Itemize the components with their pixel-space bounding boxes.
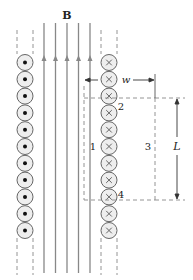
wire-into-page xyxy=(101,105,117,121)
wire-out-of-page xyxy=(17,88,33,104)
dot-icon xyxy=(23,178,27,182)
arrow-up-icon xyxy=(42,55,47,61)
wire-into-page xyxy=(101,71,117,87)
path-label-1: 1 xyxy=(90,141,96,152)
left-wire-column xyxy=(17,55,33,239)
wire-into-page xyxy=(101,223,117,239)
field-arrowheads xyxy=(42,55,93,61)
dot-icon xyxy=(23,161,27,165)
wire-out-of-page xyxy=(17,223,33,239)
arrow-down-icon xyxy=(175,194,179,199)
dot-icon xyxy=(23,212,27,216)
arrow-up-icon xyxy=(76,55,81,61)
width-dimension xyxy=(85,78,154,82)
wire-out-of-page xyxy=(17,122,33,138)
path-label-4: 4 xyxy=(118,189,124,200)
arrow-left-icon xyxy=(85,78,90,82)
arrow-up-icon xyxy=(175,99,179,104)
width-label-w: w xyxy=(122,74,131,85)
dot-icon xyxy=(23,128,27,132)
length-label-l: L xyxy=(172,140,180,153)
dot-icon xyxy=(23,61,27,65)
wire-into-page xyxy=(101,122,117,138)
wire-out-of-page xyxy=(17,55,33,71)
wire-into-page xyxy=(101,88,117,104)
wire-out-of-page xyxy=(17,139,33,155)
wire-out-of-page xyxy=(17,206,33,222)
dot-icon xyxy=(23,145,27,149)
dot-icon xyxy=(23,195,27,199)
arrow-up-icon xyxy=(53,55,58,61)
solenoid-ampere-loop-diagram: B xyxy=(0,0,193,280)
wire-out-of-page xyxy=(17,105,33,121)
path-label-2: 2 xyxy=(118,101,124,112)
dot-icon xyxy=(23,229,27,233)
arrow-right-icon xyxy=(149,78,154,82)
wire-into-page xyxy=(101,206,117,222)
wire-into-page xyxy=(101,55,117,71)
dot-icon xyxy=(23,111,27,115)
wire-into-page xyxy=(101,139,117,155)
wire-out-of-page xyxy=(17,172,33,188)
wire-out-of-page xyxy=(17,71,33,87)
wire-into-page xyxy=(101,155,117,171)
dot-icon xyxy=(23,94,27,98)
arrow-up-icon xyxy=(65,55,70,61)
wire-into-page xyxy=(101,172,117,188)
field-label-b: B xyxy=(62,9,71,22)
wire-out-of-page xyxy=(17,189,33,205)
wire-out-of-page xyxy=(17,155,33,171)
arrow-up-icon xyxy=(88,55,93,61)
right-wire-column xyxy=(101,55,117,239)
wire-into-page xyxy=(101,189,117,205)
path-label-3: 3 xyxy=(145,141,151,152)
dot-icon xyxy=(23,77,27,81)
